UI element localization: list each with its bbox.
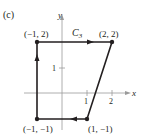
y-axis-label: y [57,10,62,20]
curve-diagram: (c) y x 1 2 1 (−1, 2) (2, 2) (1, −1) (−1… [0,0,142,140]
vertex-dot [35,117,39,121]
point-label-neg1-2: (−1, 2) [24,29,49,39]
x-axis-arrow-icon [125,91,131,95]
vertex-dot [85,117,89,121]
x-axis-label: x [131,88,136,98]
x-tick-label-1: 1 [84,97,88,106]
vertex-dot [35,40,39,44]
curve-label: C3 [72,27,83,40]
x-tick-label-2: 2 [109,97,113,106]
direction-arrow-left-icon [70,117,77,122]
point-label-2-2: (2, 2) [99,29,119,39]
panel-label: (c) [3,9,14,21]
curve-c3 [35,40,115,122]
direction-arrow-up-icon [35,54,40,61]
point-label-1-neg1: (1, −1) [88,124,113,134]
direction-arrow-right-icon [87,40,94,45]
y-tick-label-1: 1 [52,64,56,73]
closed-path [37,42,112,119]
point-label-neg1-neg1: (−1, −1) [23,124,53,134]
vertex-dot [110,40,114,44]
